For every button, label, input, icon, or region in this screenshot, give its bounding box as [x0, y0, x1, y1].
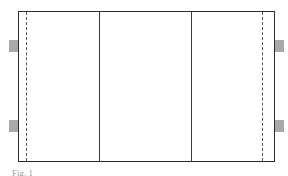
left-bottom-tab: [9, 120, 18, 132]
outer-boundary: [18, 11, 275, 162]
right-bottom-tab: [275, 120, 284, 132]
right-dashed-line: [262, 12, 263, 161]
left-top-tab: [9, 40, 18, 52]
left-dashed-line: [26, 12, 27, 161]
figure-caption: Fig. 1: [12, 168, 33, 176]
right-top-tab: [275, 40, 284, 52]
court-layout-diagram: Fig. 1: [0, 0, 288, 176]
left-divider-line: [99, 11, 100, 162]
right-divider-line: [191, 11, 192, 162]
